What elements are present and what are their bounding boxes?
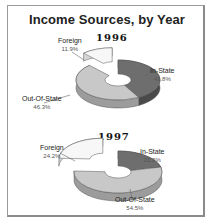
- doughnut-graphic-1997: [0, 115, 214, 224]
- slice-label-in-state-1996: In-State 41.8%: [150, 67, 175, 83]
- slice-foreign: [59, 138, 103, 166]
- slice-label-foreign-1997: Foreign 24.2%: [40, 144, 64, 160]
- doughnut-chart-1997: 1997 Foreign 24.2% In-State 21.2% Out-Of…: [0, 115, 214, 224]
- slice-label-foreign-1996: Foreign 11.9%: [58, 37, 82, 53]
- leader-line: [72, 52, 84, 60]
- slice-label-in-state-1997: In-State 21.2%: [140, 148, 165, 164]
- slice-foreign: [84, 48, 113, 64]
- slice-label-out-of-state-1997: Out-Of-State 54.5%: [115, 196, 155, 212]
- doughnut-chart-1996: 1996 Foreign 11.9% In-State 41.8% Out-Of…: [0, 0, 214, 115]
- slice-label-out-of-state-1996: Out-Of-State 46.3%: [22, 95, 62, 111]
